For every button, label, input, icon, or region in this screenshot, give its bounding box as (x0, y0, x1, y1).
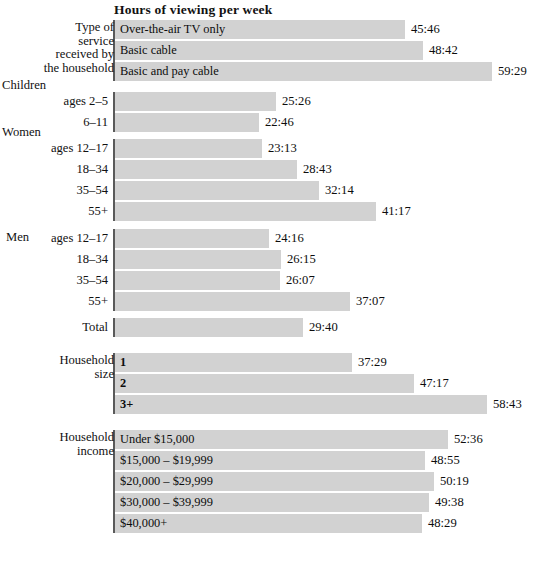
chart-bar-row: Total29:40 (0, 318, 534, 337)
bar: Basic and pay cable (115, 62, 492, 81)
bar: $15,000 – $19,999 (115, 451, 425, 470)
bar: $40,000+ (115, 514, 422, 533)
chart-bar-row: $15,000 – $19,99948:55 (0, 451, 534, 470)
chart-bar-row: $30,000 – $39,99949:38 (0, 493, 534, 512)
bar-category-label: $15,000 – $19,999 (120, 451, 213, 470)
bar: 3+ (115, 395, 487, 414)
chart-bar-row: $40,000+48:29 (0, 514, 534, 533)
bar-value-label: 52:36 (454, 430, 483, 449)
bar: $20,000 – $29,999 (115, 472, 434, 491)
chart-bar-row: 18–3428:43 (0, 160, 534, 179)
bar: 2 (115, 374, 414, 393)
bar-category-label: 2 (120, 374, 126, 393)
bar-category-label: 1 (120, 353, 126, 372)
bar-value-label: 58:43 (493, 395, 522, 414)
bar (115, 160, 297, 179)
bar-value-label: 37:29 (358, 353, 387, 372)
chart-bar-row: 137:29 (0, 353, 534, 372)
bar-category-label: Basic and pay cable (120, 62, 219, 81)
bar-value-label: 41:17 (382, 202, 411, 221)
bar-category-label: 3+ (120, 395, 133, 414)
chart-bar-row: $20,000 – $29,99950:19 (0, 472, 534, 491)
chart-bar-row: ages 12–1723:13 (0, 139, 534, 158)
chart-bar-row: ages 2–525:26 (0, 92, 534, 111)
bar (115, 250, 281, 269)
viewing-hours-bar-chart: Hours of viewing per week Type of servic… (0, 0, 534, 564)
chart-bar-row: 35–5426:07 (0, 271, 534, 290)
bar-category-label: ages 12–17 (0, 229, 108, 248)
chart-title: Hours of viewing per week (114, 2, 273, 18)
bar (115, 229, 269, 248)
chart-bar-row: 55+37:07 (0, 292, 534, 311)
bar-category-label: Total (0, 318, 108, 337)
bar-value-label: 47:17 (420, 374, 449, 393)
bar (115, 92, 276, 111)
chart-group: Total29:40 (0, 318, 534, 337)
bar-category-label: $30,000 – $39,999 (120, 493, 213, 512)
bar-value-label: 28:43 (303, 160, 332, 179)
chart-group: Menages 12–1724:1618–3426:1535–5426:0755… (0, 229, 534, 311)
chart-group: Type of service received by the househol… (0, 20, 534, 81)
bar-category-label: 18–34 (0, 250, 108, 269)
bar: Basic cable (115, 41, 423, 60)
bar-value-label: 48:55 (431, 451, 460, 470)
bar-value-label: 50:19 (440, 472, 469, 491)
group-title: Children (2, 79, 114, 93)
bar-category-label: 55+ (0, 292, 108, 311)
bar (115, 181, 319, 200)
bar-value-label: 23:13 (268, 139, 297, 158)
bar-value-label: 26:07 (286, 271, 315, 290)
bar-category-label: Basic cable (120, 41, 177, 60)
bar (115, 113, 259, 132)
bar (115, 202, 376, 221)
bar (115, 292, 350, 311)
bar: Under $15,000 (115, 430, 448, 449)
bar: 1 (115, 353, 352, 372)
chart-bar-row: 55+41:17 (0, 202, 534, 221)
bar: Over-the-air TV only (115, 20, 405, 39)
bar-value-label: 48:42 (429, 41, 458, 60)
bar-value-label: 26:15 (287, 250, 316, 269)
bar-category-label: 18–34 (0, 160, 108, 179)
chart-bar-row: ages 12–1724:16 (0, 229, 534, 248)
bar-category-label: 55+ (0, 202, 108, 221)
bar (115, 139, 262, 158)
chart-bar-row: 35–5432:14 (0, 181, 534, 200)
bar-category-label: $20,000 – $29,999 (120, 472, 213, 491)
chart-group: Household size137:29247:173+58:43 (0, 353, 534, 414)
bar-category-label: 35–54 (0, 271, 108, 290)
bar-category-label: 35–54 (0, 181, 108, 200)
bar-value-label: 29:40 (309, 318, 338, 337)
bar-category-label: Over-the-air TV only (120, 20, 225, 39)
bar-value-label: 37:07 (356, 292, 385, 311)
chart-bar-row: 3+58:43 (0, 395, 534, 414)
bar-category-label: $40,000+ (120, 514, 167, 533)
bar: $30,000 – $39,999 (115, 493, 429, 512)
bar-value-label: 25:26 (282, 92, 311, 111)
chart-bar-row: Under $15,00052:36 (0, 430, 534, 449)
bar-value-label: 48:29 (428, 514, 457, 533)
chart-bar-row: Over-the-air TV only45:46 (0, 20, 534, 39)
chart-bar-row: 247:17 (0, 374, 534, 393)
bar-category-label: ages 12–17 (0, 139, 108, 158)
bar-value-label: 32:14 (325, 181, 354, 200)
bar (115, 318, 303, 337)
chart-group: Household incomeUnder $15,00052:36$15,00… (0, 430, 534, 533)
bar-category-label: ages 2–5 (0, 92, 108, 111)
chart-bar-row: 18–3426:15 (0, 250, 534, 269)
bar-value-label: 49:38 (435, 493, 464, 512)
bar-category-label: Under $15,000 (120, 430, 194, 449)
chart-group: Womenages 12–1723:1318–3428:4335–5432:14… (0, 139, 534, 221)
chart-bar-row: Basic cable48:42 (0, 41, 534, 60)
bar-value-label: 45:46 (411, 20, 440, 39)
bar (115, 271, 280, 290)
bar-value-label: 22:46 (265, 113, 294, 132)
group-title: Women (2, 126, 114, 140)
bar-value-label: 24:16 (275, 229, 304, 248)
bar-value-label: 59:29 (498, 62, 527, 81)
